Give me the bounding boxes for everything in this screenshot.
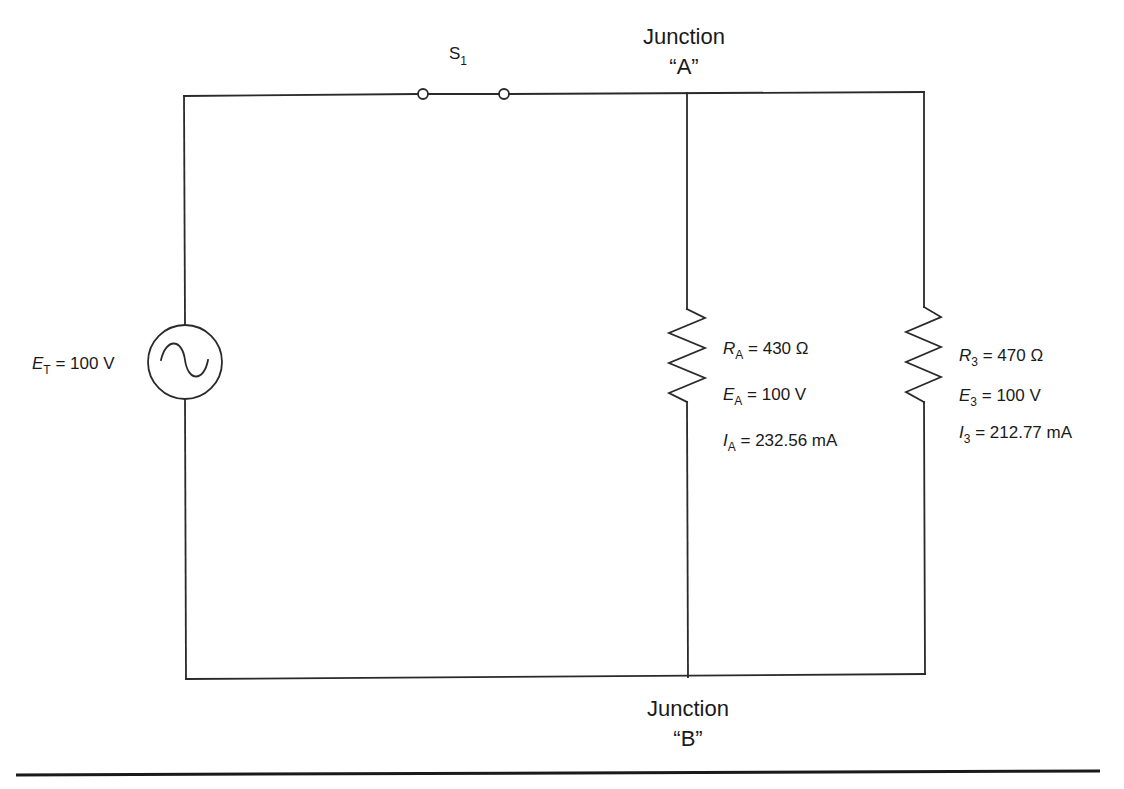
junction-a-line1: Junction xyxy=(614,22,754,52)
resistor-a-voltage-label: EA = 100 V xyxy=(723,385,806,405)
voltage-value: = 100 V xyxy=(982,386,1041,405)
switch-symbol: S xyxy=(449,44,460,63)
voltage-subscript: 3 xyxy=(970,395,977,409)
top-wire-left xyxy=(184,94,418,96)
source-value: = 100 V xyxy=(55,354,114,373)
resistance-symbol: R xyxy=(723,339,735,358)
branch-a-wire-bottom xyxy=(687,402,688,677)
junction-a-line2: “A” xyxy=(614,52,754,82)
switch-subscript: 1 xyxy=(460,54,467,68)
circuit-schematic xyxy=(0,0,1124,789)
resistor-3-voltage-label: E3 = 100 V xyxy=(959,386,1041,406)
switch-terminal-left-icon xyxy=(418,89,428,99)
left-wire-bottom xyxy=(185,399,186,679)
left-wire-top xyxy=(184,96,185,325)
junction-b-line2: “B” xyxy=(618,724,758,754)
source-subscript: T xyxy=(43,363,50,377)
junction-b-line1: Junction xyxy=(618,694,758,724)
voltage-subscript: A xyxy=(734,394,742,408)
current-subscript: A xyxy=(728,440,736,454)
resistor-3-zigzag xyxy=(906,307,941,402)
resistor-3-resistance-label: R3 = 470 Ω xyxy=(959,346,1043,366)
resistance-symbol: R xyxy=(959,346,971,365)
source-symbol: E xyxy=(32,354,43,373)
resistance-subscript: A xyxy=(735,348,743,362)
resistance-value: = 470 Ω xyxy=(983,346,1043,365)
voltage-value: = 100 V xyxy=(747,385,806,404)
ac-sine-source-icon xyxy=(161,344,208,377)
current-subscript: 3 xyxy=(964,432,971,446)
current-value: = 212.77 mA xyxy=(975,423,1072,442)
junction-b-label: Junction “B” xyxy=(618,694,758,754)
page-separator-rule xyxy=(16,771,1100,775)
resistance-value: = 430 Ω xyxy=(748,339,808,358)
source-voltage-label: ET = 100 V xyxy=(32,354,115,374)
resistor-a-zigzag xyxy=(669,309,705,402)
resistor-a-resistance-label: RA = 430 Ω xyxy=(723,339,808,359)
current-value: = 232.56 mA xyxy=(740,431,837,450)
branch-3-wire-bottom xyxy=(924,402,925,674)
bottom-wire xyxy=(186,674,925,679)
top-wire-right xyxy=(509,92,924,94)
resistance-subscript: 3 xyxy=(971,355,978,369)
junction-a-label: Junction “A” xyxy=(614,22,754,82)
resistor-a-current-label: IA = 232.56 mA xyxy=(723,431,837,451)
resistor-3-current-label: I3 = 212.77 mA xyxy=(959,423,1072,443)
switch-label: S1 xyxy=(449,44,467,64)
switch-terminal-right-icon xyxy=(499,89,509,99)
voltage-symbol: E xyxy=(959,386,970,405)
voltage-symbol: E xyxy=(723,385,734,404)
